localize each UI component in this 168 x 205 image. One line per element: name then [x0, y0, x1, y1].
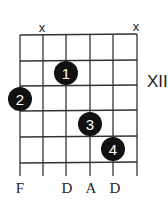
- note-label: A: [86, 180, 97, 196]
- nut-line: [20, 34, 137, 35]
- fret-line: [20, 110, 137, 111]
- svg-text:4: 4: [109, 141, 117, 158]
- muted-string-marker: x: [133, 19, 140, 34]
- note-label: D: [110, 180, 121, 196]
- note-label: D: [62, 180, 73, 196]
- finger-dot: 3: [78, 112, 102, 136]
- finger-dot: 2: [8, 87, 32, 111]
- note-label: F: [16, 180, 24, 196]
- fret-line: [20, 162, 137, 163]
- finger-dot: 4: [101, 137, 125, 161]
- svg-text:2: 2: [16, 91, 24, 108]
- fret-line: [20, 60, 137, 61]
- fret-position-label: XII: [147, 72, 168, 91]
- fret-line: [20, 85, 137, 86]
- chord-diagram: x x XII 1 2 3 4 F D A D: [0, 0, 168, 205]
- fret-line: [20, 136, 137, 137]
- svg-text:3: 3: [86, 116, 94, 133]
- finger-dot: 1: [54, 61, 78, 85]
- muted-string-marker: x: [39, 20, 46, 35]
- svg-text:1: 1: [62, 65, 70, 82]
